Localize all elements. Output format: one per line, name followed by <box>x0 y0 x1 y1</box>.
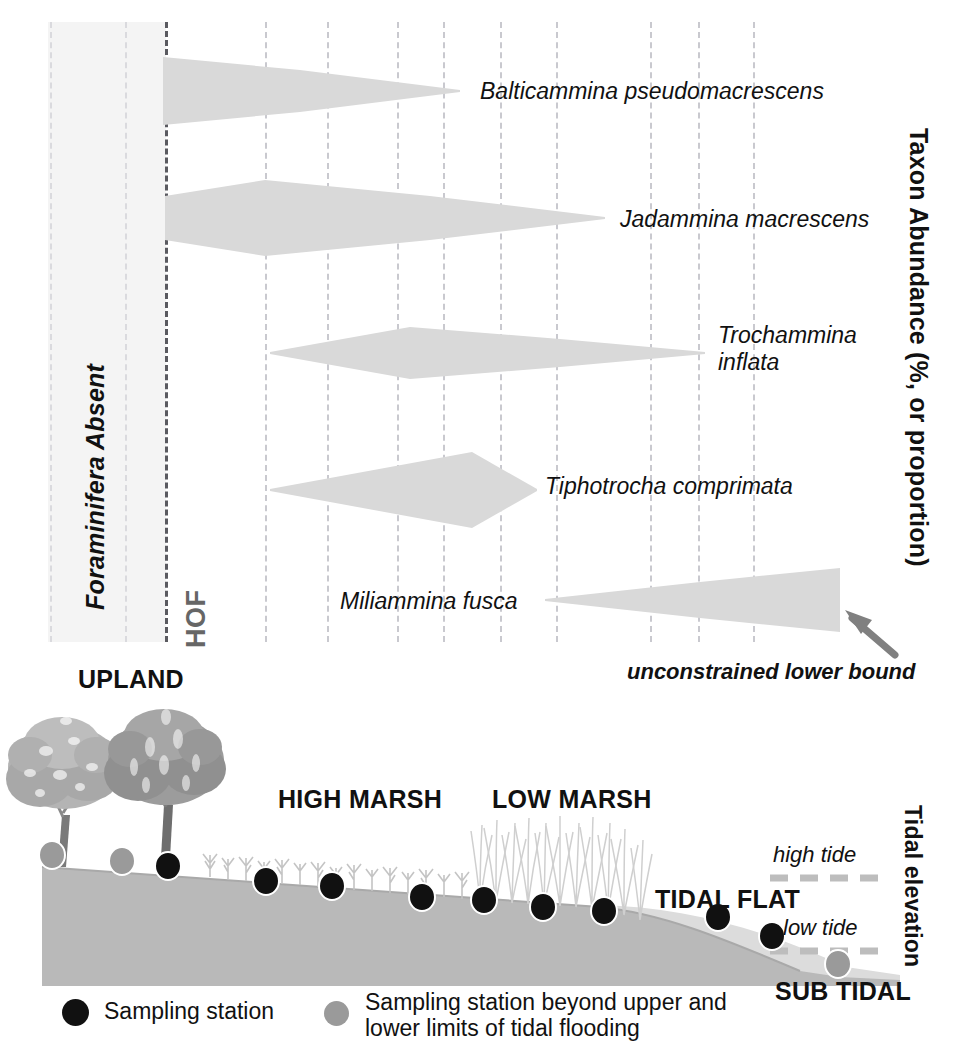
species-label-miliammina: Miliammina fusca <box>340 588 518 615</box>
tidal-elevation-axis-label: Tidal elevation <box>901 805 925 967</box>
species-label-balticammina: Balticammina pseudomacrescens <box>480 78 824 105</box>
zone-label-upland: UPLAND <box>78 665 184 694</box>
sampling-station-beyond-dot <box>825 950 851 978</box>
taxon-abundance-axis-label: Taxon Abundance (%, or proportion) <box>906 128 932 567</box>
hof-line <box>165 22 168 642</box>
sampling-station-dot <box>591 897 617 925</box>
tree-icon-1 <box>6 717 120 867</box>
zone-label-high-marsh: HIGH MARSH <box>278 785 442 814</box>
gridline <box>500 22 502 642</box>
gridline <box>125 22 127 642</box>
zone-label-low-marsh: LOW MARSH <box>492 785 652 814</box>
sampling-station-dot <box>319 872 345 900</box>
gridline <box>556 22 558 642</box>
legend-text-sampling-station: Sampling station <box>104 999 274 1025</box>
legend: Sampling station Sampling station beyond… <box>0 985 958 1060</box>
sampling-station-beyond-dot <box>109 847 135 875</box>
taxon-abundance-shape <box>270 327 705 379</box>
sampling-station-beyond-dot <box>39 841 65 869</box>
hof-label: HOF <box>182 590 210 649</box>
unconstrained-arrow-icon <box>845 610 895 655</box>
species-label-jadammina: Jadammina macrescens <box>620 206 869 233</box>
species-label-trochammina: Trochammina inflata <box>718 322 857 376</box>
legend-text-beyond-line2: lower limits of tidal flooding <box>365 1015 640 1041</box>
figure-root: Balticammina pseudomacrescens Jadammina … <box>0 0 958 1060</box>
high-tide-label: high tide <box>773 842 856 868</box>
sampling-station-dot <box>155 852 181 880</box>
gridline <box>265 22 267 642</box>
sampling-station-dot <box>759 922 785 950</box>
taxon-abundance-shape <box>270 452 537 528</box>
taxon-abundance-shape <box>545 568 840 632</box>
taxon-abundance-panel: Balticammina pseudomacrescens Jadammina … <box>0 0 958 660</box>
gridline <box>50 22 52 642</box>
gridline <box>650 22 652 642</box>
taxon-abundance-shape <box>163 57 460 125</box>
species-label-trochammina-line2: inflata <box>718 349 779 375</box>
sampling-station-dot <box>471 886 497 914</box>
species-label-trochammina-line1: Trochammina <box>718 322 857 348</box>
taxon-abundance-shape <box>165 180 605 256</box>
low-tide-label: low tide <box>783 915 858 941</box>
gridline <box>327 22 329 642</box>
species-label-tiphotrocha: Tiphotrocha comprimata <box>545 473 793 500</box>
sampling-station-dot <box>530 893 556 921</box>
foraminifera-absent-label: Foraminifera Absent <box>82 364 108 610</box>
legend-marker-sampling-station-beyond <box>324 1001 349 1026</box>
gridline <box>397 22 399 642</box>
zone-label-tidal-flat: TIDAL FLAT <box>655 885 800 914</box>
sampling-station-dot <box>409 883 435 911</box>
sampling-station-dot <box>253 867 279 895</box>
legend-text-sampling-station-beyond: Sampling station beyond upper and lower … <box>365 990 727 1042</box>
gridline <box>443 22 445 642</box>
legend-marker-sampling-station <box>62 999 89 1026</box>
legend-text-beyond-line1: Sampling station beyond upper and <box>365 989 727 1015</box>
gridline <box>698 22 700 642</box>
